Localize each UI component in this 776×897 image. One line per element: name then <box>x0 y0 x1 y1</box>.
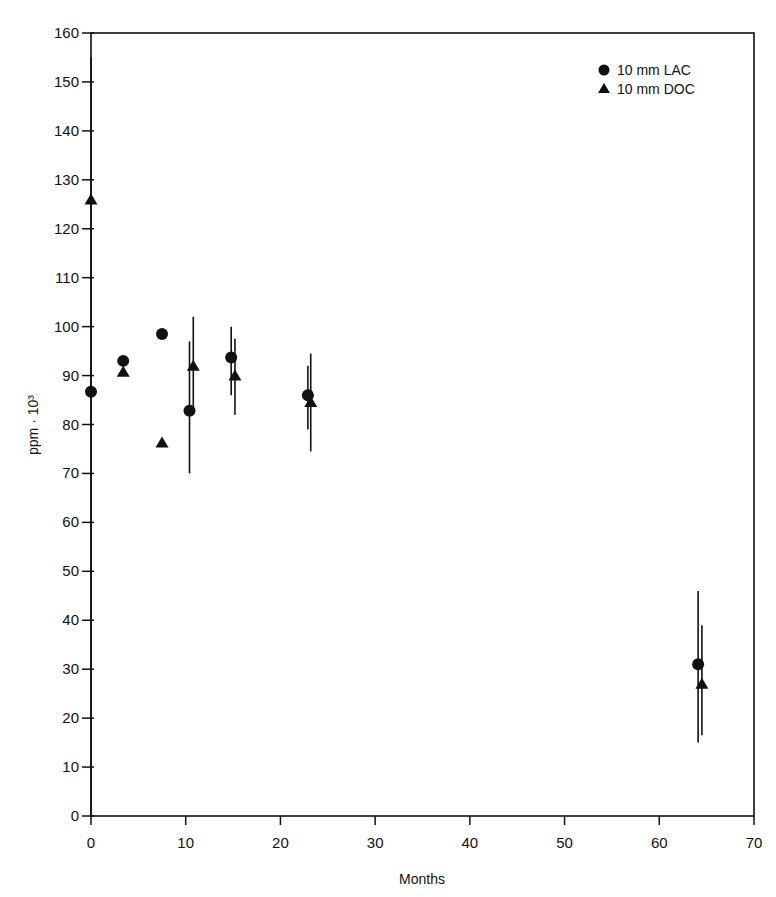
x-axis: 010203040506070 <box>87 816 763 851</box>
scatter-chart: 0102030405060708090100110120130140150160… <box>0 0 776 897</box>
y-tick-label: 0 <box>71 807 79 824</box>
y-tick-label: 110 <box>55 269 79 286</box>
y-tick-label: 130 <box>54 171 79 188</box>
y-tick-label: 120 <box>54 220 79 237</box>
error-bars <box>91 57 702 816</box>
triangle-marker-icon <box>117 366 130 377</box>
y-tick-label: 70 <box>62 464 79 481</box>
x-tick-label: 20 <box>272 834 289 851</box>
y-tick-label: 50 <box>62 562 79 579</box>
legend-label-lac: 10 mm LAC <box>617 62 691 78</box>
y-tick-label: 60 <box>62 513 79 530</box>
y-axis-title: ppm · 10³ <box>25 395 41 455</box>
x-tick-label: 50 <box>556 834 573 851</box>
x-tick-label: 10 <box>177 834 194 851</box>
plot-border <box>91 33 754 816</box>
triangle-marker-icon <box>598 83 610 93</box>
legend: 10 mm LAC 10 mm DOC <box>598 62 695 97</box>
y-tick-label: 150 <box>54 73 79 90</box>
legend-label-doc: 10 mm DOC <box>617 81 695 97</box>
y-tick-label: 80 <box>62 416 79 433</box>
y-tick-label: 140 <box>54 122 79 139</box>
x-tick-label: 70 <box>746 834 763 851</box>
triangle-marker-icon <box>85 193 98 204</box>
circle-marker-icon <box>117 355 129 367</box>
y-tick-label: 160 <box>54 24 79 41</box>
y-tick-label: 90 <box>62 367 79 384</box>
y-tick-label: 100 <box>54 318 79 335</box>
x-tick-label: 40 <box>462 834 479 851</box>
x-axis-title: Months <box>399 871 445 887</box>
x-tick-label: 60 <box>651 834 668 851</box>
y-tick-label: 30 <box>62 660 79 677</box>
y-tick-label: 20 <box>62 709 79 726</box>
y-tick-label: 40 <box>62 611 79 628</box>
triangle-marker-icon <box>156 437 169 448</box>
x-tick-label: 30 <box>367 834 384 851</box>
x-tick-label: 0 <box>87 834 95 851</box>
circle-marker-icon <box>156 328 168 340</box>
circle-marker-icon <box>225 351 237 363</box>
circle-marker-icon <box>184 405 196 417</box>
circle-marker-icon <box>692 658 704 670</box>
data-markers <box>85 193 709 688</box>
y-tick-label: 10 <box>62 758 79 775</box>
plot-frame <box>91 33 754 816</box>
circle-marker-icon <box>85 386 97 398</box>
circle-marker-icon <box>599 65 610 76</box>
y-axis: 0102030405060708090100110120130140150160 <box>54 24 94 824</box>
